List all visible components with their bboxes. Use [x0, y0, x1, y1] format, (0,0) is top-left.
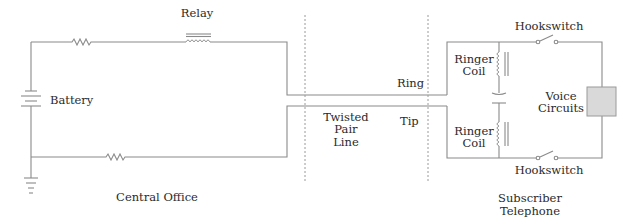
ringer-coil-top-icon [497, 52, 508, 76]
sub-ring-wire [447, 42, 536, 95]
tip-label: Tip [400, 115, 419, 127]
ringer-coil-bottom-icon [497, 122, 508, 146]
hookswitch-top-label: Hookswitch [515, 20, 584, 32]
central-office-label: Central Office [116, 191, 198, 203]
voice-circuits-box [587, 87, 616, 116]
hookswitch-bottom-label: Hookswitch [515, 164, 584, 176]
relay-icon [186, 34, 211, 42]
ground-icon [24, 178, 38, 193]
hookswitch-bottom-icon[interactable] [536, 116, 602, 160]
co-top-wire [31, 39, 447, 95]
hookswitch-top-icon[interactable] [536, 35, 602, 87]
battery-label: Battery [50, 94, 93, 106]
relay-label: Relay [181, 7, 214, 19]
battery-icon [21, 91, 41, 106]
co-bottom-wire [31, 106, 447, 160]
ring-label: Ring [397, 77, 424, 89]
central-office-circuit [21, 34, 447, 193]
capacitor-icon [492, 93, 506, 105]
